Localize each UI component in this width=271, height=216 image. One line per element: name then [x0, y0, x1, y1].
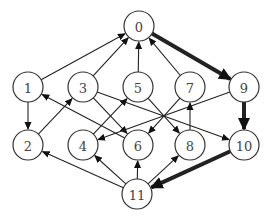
edge-layer — [28, 34, 244, 188]
node-6: 6 — [123, 130, 153, 160]
node-2: 2 — [13, 130, 43, 160]
node-label: 10 — [236, 139, 253, 154]
node-label: 3 — [79, 81, 87, 96]
node-3: 3 — [68, 72, 98, 102]
edge-2-to-3 — [38, 99, 72, 135]
node-10: 10 — [229, 130, 259, 160]
edge-11-to-8 — [148, 156, 178, 184]
node-label: 4 — [79, 139, 87, 154]
edge-7-to-0 — [149, 38, 180, 75]
node-label: 6 — [134, 139, 142, 154]
node-8: 8 — [175, 130, 205, 160]
node-0: 0 — [124, 11, 154, 41]
node-layer: 01357924681011 — [13, 11, 259, 209]
node-label: 1 — [24, 81, 32, 96]
node-11: 11 — [122, 179, 152, 209]
node-5: 5 — [123, 72, 153, 102]
node-label: 2 — [24, 139, 32, 154]
node-9: 9 — [229, 72, 259, 102]
node-label: 11 — [129, 188, 146, 203]
node-7: 7 — [175, 72, 205, 102]
graph-canvas: 01357924681011 — [0, 0, 271, 216]
node-1: 1 — [13, 72, 43, 102]
edge-11-to-4 — [95, 156, 126, 184]
node-label: 7 — [186, 81, 194, 96]
node-label: 0 — [135, 20, 143, 35]
node-label: 5 — [134, 81, 142, 96]
edge-3-to-0 — [93, 38, 128, 76]
node-label: 8 — [186, 139, 194, 154]
node-label: 9 — [240, 81, 248, 96]
node-4: 4 — [68, 130, 98, 160]
